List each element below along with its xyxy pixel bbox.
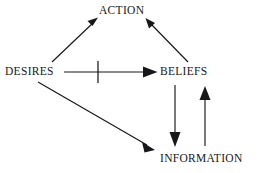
- edge-desires-to-information-arrowhead: [142, 142, 155, 153]
- node-label-beliefs: BELIEFS: [160, 66, 207, 78]
- edge-beliefs-to-action-line: [150, 23, 188, 62]
- edge-information-to-beliefs-arrowhead: [200, 86, 211, 100]
- node-label-desires: DESIRES: [5, 66, 54, 78]
- node-label-action: ACTION: [99, 5, 144, 17]
- edge-desires-to-action: [52, 18, 98, 63]
- edge-beliefs-to-information: [170, 85, 181, 147]
- edge-desires-to-action-arrowhead: [88, 18, 99, 27]
- edge-desires-to-beliefs: [64, 61, 158, 83]
- influence-diagram: ACTION DESIRES BELIEFS INFORMATION: [0, 0, 260, 173]
- edge-desires-to-information-line: [38, 82, 147, 145]
- diagram-canvas: [0, 0, 260, 173]
- edge-beliefs-to-action: [146, 18, 189, 62]
- edge-information-to-beliefs: [200, 86, 211, 146]
- edge-desires-to-information: [38, 82, 155, 153]
- node-label-information: INFORMATION: [160, 153, 243, 165]
- edge-beliefs-to-information-arrowhead: [170, 132, 181, 147]
- edge-desires-to-beliefs-arrowhead: [143, 67, 158, 78]
- edge-desires-to-action-line: [52, 22, 94, 62]
